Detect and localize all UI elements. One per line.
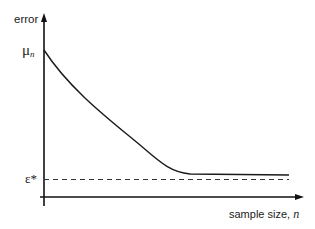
mu-symbol: μ [22,42,30,58]
x-axis-label-text: sample size, [229,208,290,220]
mu-n-label: μn [22,43,35,58]
error-curve [44,50,289,175]
diagram-canvas [0,0,315,229]
x-axis-arrow-icon [295,194,304,200]
mu-subscript: n [30,49,35,59]
y-axis-label: error [14,14,38,26]
x-axis-label: sample size, n [229,208,299,220]
y-axis-arrow-icon [41,13,47,22]
epsilon-star-label: ε* [25,172,37,185]
x-axis-variable: n [293,207,299,221]
